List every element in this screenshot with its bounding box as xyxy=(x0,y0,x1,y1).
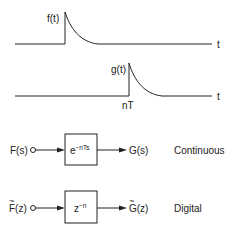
arrow-head-icon xyxy=(57,148,65,153)
input-node-icon xyxy=(31,148,36,153)
g-exponential-decay xyxy=(129,63,162,96)
f-signal-plot: f(t) t xyxy=(15,12,220,50)
digital-input-label: F(z) xyxy=(9,203,27,214)
continuous-input-label: F(s) xyxy=(10,145,28,156)
f-label: f(t) xyxy=(47,13,59,24)
digital-block-diagram: ~ F(z) z−n ~ G(z) Digital xyxy=(9,191,202,223)
digital-output-label: G(z) xyxy=(129,203,148,214)
continuous-block-diagram: F(s) e−nTs G(s) Continuous xyxy=(10,134,225,165)
arrow-head-icon xyxy=(57,206,65,211)
arrow-head-icon xyxy=(119,206,127,211)
f-exponential-decay xyxy=(65,12,98,44)
arrow-head-icon xyxy=(119,148,127,153)
continuous-output-label: G(s) xyxy=(129,145,148,156)
delay-label: nT xyxy=(122,100,134,111)
g-label: g(t) xyxy=(111,64,126,75)
g-signal-plot: g(t) t nT xyxy=(15,63,220,111)
digital-domain-label: Digital xyxy=(174,203,202,214)
f-axis-label: t xyxy=(217,39,220,50)
time-delay-diagram: f(t) t g(t) t nT F(s) e−nTs G(s) Continu… xyxy=(0,0,234,233)
g-axis-label: t xyxy=(217,91,220,102)
input-node-icon xyxy=(31,206,36,211)
continuous-domain-label: Continuous xyxy=(174,145,225,156)
